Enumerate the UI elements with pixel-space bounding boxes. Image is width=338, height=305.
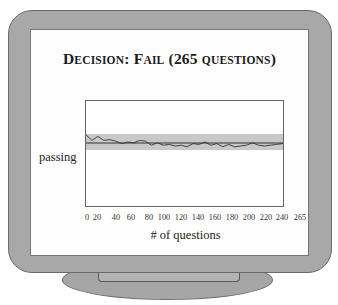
title-fail-rest: AIL: [143, 54, 164, 66]
title-initial-f: F: [134, 50, 144, 67]
x-tick-label: 60: [127, 213, 135, 222]
x-tick-label: 0: [85, 213, 89, 222]
x-tick-label: 160: [209, 213, 221, 222]
passing-band: [86, 134, 283, 150]
x-tick-label: 220: [260, 213, 272, 222]
title-count: 265: [174, 50, 202, 67]
title-decision-rest: ECISION: [74, 54, 124, 66]
x-tick-label: 80: [145, 213, 153, 222]
y-axis-label: passing: [39, 150, 77, 165]
x-tick-label: 240: [276, 213, 288, 222]
x-tick-label: 200: [243, 213, 255, 222]
title-colon: :: [124, 50, 133, 67]
line-plot: [86, 101, 283, 206]
title-initial-d: D: [63, 50, 74, 67]
x-tick-label: 120: [175, 213, 187, 222]
x-tick-label: 265: [294, 213, 306, 222]
x-tick-label: 180: [226, 213, 238, 222]
chart-plot-area: [85, 100, 284, 207]
x-tick-label: 140: [192, 213, 204, 222]
x-tick-label: 100: [158, 213, 170, 222]
x-axis-label: # of questions: [31, 228, 308, 243]
x-axis-ticks: 020406080100120140160180200220240265: [83, 213, 323, 225]
title-questions: QUESTIONS: [202, 54, 271, 66]
title-paren-open: (: [164, 50, 173, 67]
monitor-screen: DECISION: FAIL (265 QUESTIONS) passing 0…: [30, 29, 309, 256]
x-tick-label: 40: [112, 213, 120, 222]
monitor-stand-slot: [98, 272, 240, 282]
chart-title: DECISION: FAIL (265 QUESTIONS): [31, 50, 308, 68]
x-tick-label: 20: [93, 213, 101, 222]
title-paren-close: ): [271, 50, 276, 67]
